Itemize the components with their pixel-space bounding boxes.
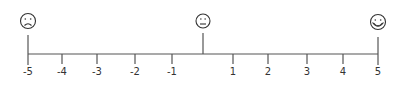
tick-label: -5	[23, 66, 33, 77]
tick-marks	[62, 54, 343, 64]
rating-scale: -5 -4 -3 -2 -1 1 2 3 4 5	[0, 0, 400, 85]
tick-label: 4	[340, 66, 346, 77]
tick-label: 1	[230, 66, 236, 77]
tick-label: -4	[57, 66, 67, 77]
sad-face-icon	[21, 14, 36, 29]
tick-label: 5	[375, 66, 381, 77]
tick-label: -3	[92, 66, 102, 77]
neutral-face-icon	[196, 14, 210, 28]
tick-label: 3	[304, 66, 310, 77]
tick-label: 2	[265, 66, 271, 77]
happy-face-icon	[371, 15, 386, 30]
tick-label: -1	[167, 66, 177, 77]
tick-label: -2	[130, 66, 140, 77]
